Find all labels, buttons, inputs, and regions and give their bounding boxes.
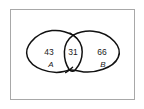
set-b-label: B bbox=[92, 61, 114, 69]
set-a-only-count: 43 bbox=[38, 48, 60, 57]
intersection-count: 31 bbox=[62, 48, 84, 57]
venn-diagram-figure: 43 31 66 A B bbox=[0, 0, 144, 109]
set-b-only-count: 66 bbox=[91, 48, 113, 57]
set-a-label: A bbox=[40, 61, 62, 69]
